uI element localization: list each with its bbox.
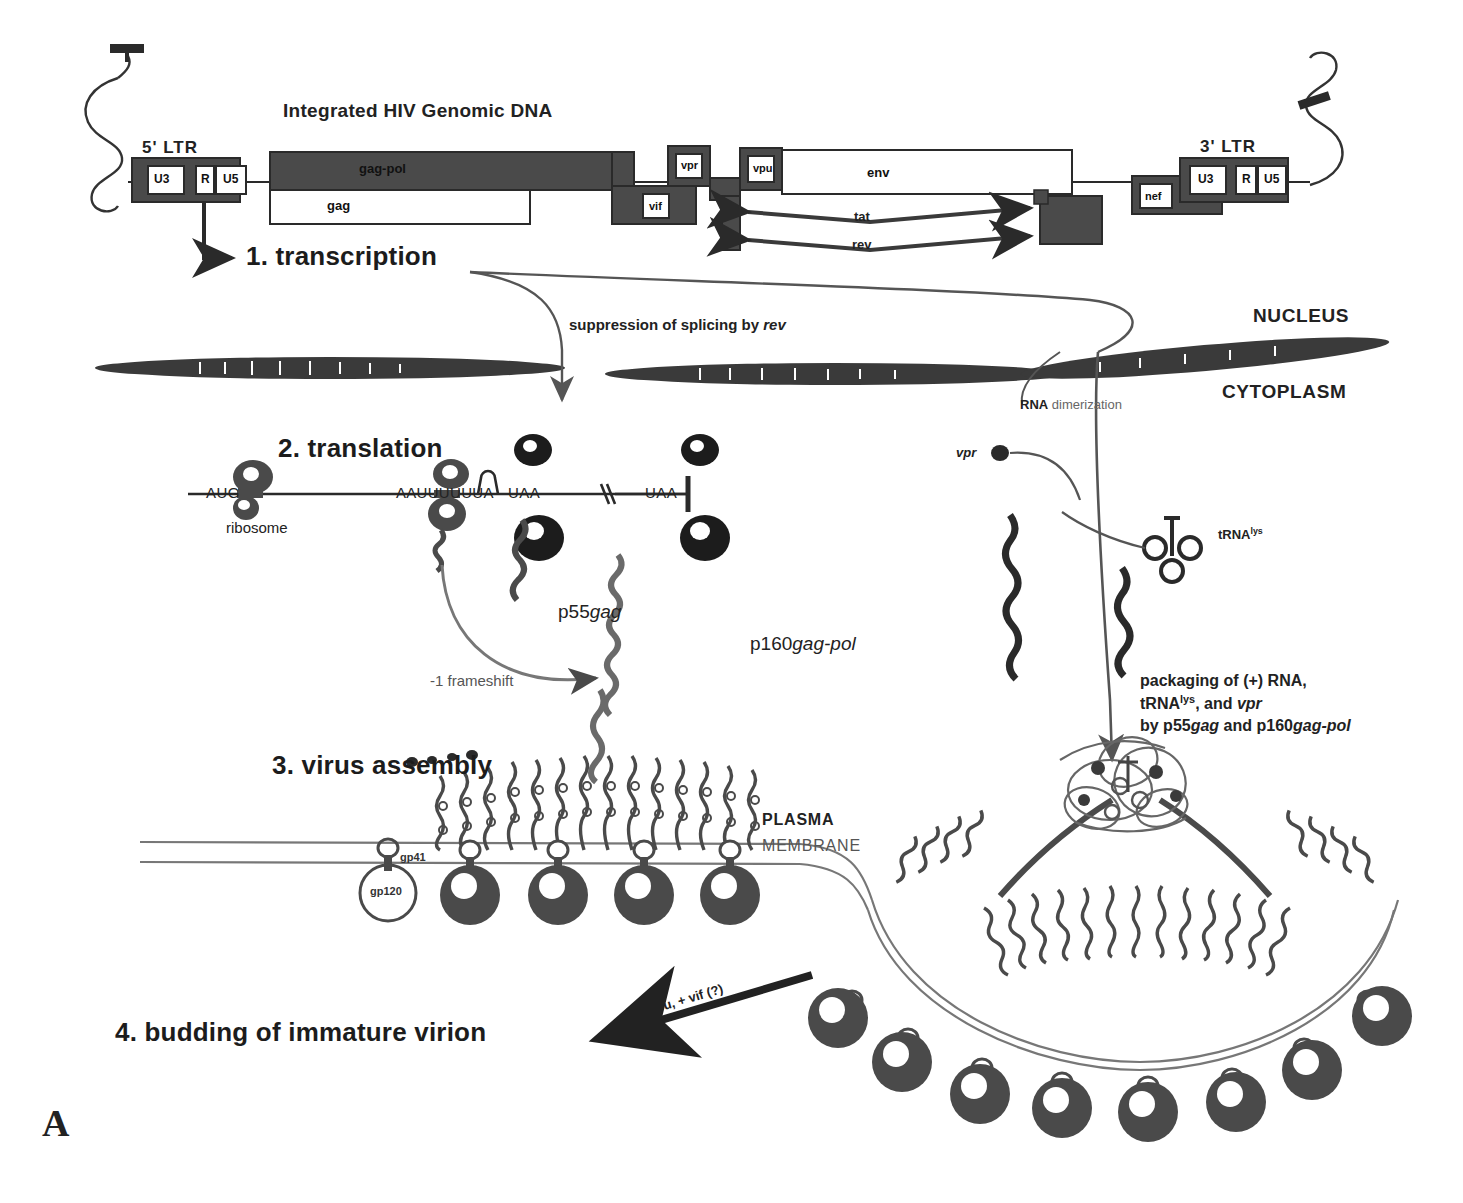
trna-lys-label: tRNAlys: [1218, 527, 1263, 541]
rna-dimerization-bold: RNA: [1020, 397, 1048, 412]
splicing-suppression-label: suppression of splicing by rev: [569, 317, 786, 332]
genome-map: [86, 44, 1343, 258]
bud-spike-3: [950, 1059, 1010, 1124]
p55-number: p55: [558, 601, 590, 622]
step-3-virus-assembly-label: 3. virus assembly: [272, 752, 492, 778]
ltr5-u5-label: U5: [221, 173, 240, 186]
ltr3-label: 3' LTR: [1200, 138, 1256, 155]
host-dna-left: [86, 78, 123, 211]
rna-export-paths: [470, 272, 1133, 760]
membrane-label: MEMBRANE: [762, 838, 861, 854]
mrna-export-arrow-left: [470, 272, 562, 400]
nef-label: nef: [1143, 190, 1164, 202]
nuclear-envelope: [95, 329, 1390, 387]
trna-lys-base: tRNA: [1218, 527, 1251, 542]
p160gagpol-chain: [605, 555, 622, 715]
plasma-label: PLASMA: [762, 812, 834, 828]
tat-splice-arrow: [748, 208, 1030, 222]
p160-gene: gag-pol: [792, 633, 855, 654]
p160gagpol-label: p160gag-pol: [750, 634, 856, 653]
p160-number: p160: [750, 633, 792, 654]
nucleus-label: NUCLEUS: [1253, 306, 1349, 325]
genomic-rna-strand-1: [1005, 515, 1018, 679]
rna-dimerization-label: RNA dimerization: [1020, 398, 1122, 411]
ltr3-u5-label: U5: [1262, 173, 1281, 186]
bud-spike-1: [808, 988, 868, 1048]
tat-arrow-label: tat: [854, 210, 870, 223]
vpr-particle-label: vpr: [956, 446, 976, 459]
nuclear-membrane-right: [1020, 329, 1391, 387]
packaging-p55-pre: by p55: [1140, 717, 1191, 734]
packaging-line2-rest: , and: [1195, 695, 1237, 712]
gp41-label: gp41: [400, 852, 426, 863]
env-spike-4: [700, 841, 760, 925]
nuclear-membrane-middle: [605, 363, 1065, 385]
ltr3-r-label: R: [1240, 173, 1253, 186]
bud-gag-lattice: [887, 800, 1384, 975]
bud-spike-8: [1352, 986, 1412, 1046]
gag-label: gag: [325, 199, 352, 213]
stop-codon-2-label: UAA: [645, 485, 677, 500]
env-spike-3: [614, 841, 674, 925]
tat-rev-exon2: [1040, 196, 1102, 244]
rev-arrow-label: rev: [852, 238, 872, 251]
packaging-trna-base: tRNA: [1140, 695, 1180, 712]
step-4-budding-label: 4. budding of immature virion: [115, 1019, 486, 1045]
vpu-label: vpu: [751, 162, 775, 174]
trna-lys-superscript: lys: [1251, 526, 1263, 536]
trna-lys-icon: [1062, 512, 1201, 582]
rev-splice-arrow: [748, 236, 1030, 250]
splicing-suppression-text: suppression of splicing by: [569, 316, 763, 333]
ltr3-u3-label: U3: [1196, 173, 1215, 186]
cytoplasm-label: CYTOPLASM: [1222, 382, 1346, 401]
tat-rev-exon1: [722, 196, 740, 250]
bud-spike-5: [1118, 1077, 1178, 1142]
bud-spike-4: [1032, 1073, 1092, 1138]
genomic-rna-strand-2: [1117, 568, 1130, 676]
packaging-line-1: packaging of (+) RNA,: [1140, 670, 1351, 692]
gagpol-orf-box: [270, 152, 630, 190]
p55gag-label: p55gag: [558, 602, 621, 621]
packaging-components: [991, 445, 1201, 679]
vpr-label: vpr: [679, 159, 700, 171]
nucleocapsid-proteins: [1078, 761, 1182, 806]
plasma-membrane-assembly: [140, 690, 872, 925]
gp120-label: gp120: [368, 886, 404, 897]
transcription-start-arrow: [204, 202, 232, 258]
nuclear-membrane-left: [95, 357, 565, 379]
rna-dimerization-rest: dimerization: [1048, 397, 1122, 412]
ltr5-label: 5' LTR: [142, 139, 198, 156]
vif-label: vif: [647, 200, 664, 212]
p55-gene: gag: [590, 601, 622, 622]
bud-env-spikes: [808, 986, 1412, 1142]
env-label: env: [865, 166, 891, 180]
ltr5-r-label: R: [199, 173, 212, 186]
packaging-trna-sup: lys: [1180, 693, 1195, 705]
gag-orf-box: [270, 190, 530, 224]
bud-spike-7: [1282, 1039, 1342, 1100]
rev-italic-label: rev: [763, 316, 786, 333]
start-codon-label: AUG: [206, 485, 240, 500]
panel-letter: A: [42, 1104, 69, 1142]
nascent-peptide-chain: [435, 530, 444, 571]
packaging-line-3: by p55gag and p160gag-pol: [1140, 715, 1351, 737]
splicing-suppression-curve: [470, 272, 1133, 352]
env-orf-box: [782, 150, 1072, 194]
step-2-translation-label: 2. translation: [278, 435, 443, 461]
env-spike-1: [440, 841, 500, 925]
packaging-description: packaging of (+) RNA, tRNAlys, and vpr b…: [1140, 670, 1351, 736]
env-spike-2: [528, 841, 588, 925]
vpr-particle-dot: [991, 445, 1009, 461]
packaging-gag-italic: gag: [1191, 717, 1219, 734]
host-dna-right: [1306, 53, 1343, 185]
ribosome-frameshifting: [428, 459, 469, 571]
bud-spike-6: [1206, 1069, 1266, 1132]
packaging-line3-mid: and p160: [1219, 717, 1293, 734]
genomic-rna-arrow: [1096, 352, 1112, 760]
packaging-vpr-italic: vpr: [1237, 695, 1262, 712]
gagpol-label: gag-pol: [357, 162, 408, 176]
step-1-transcription-label: 1. transcription: [246, 243, 437, 269]
ltr5-u3-label: U3: [152, 173, 171, 186]
slip-site-label: AAUUUUUUA: [396, 485, 494, 500]
incoming-p160-chain: [591, 690, 604, 782]
